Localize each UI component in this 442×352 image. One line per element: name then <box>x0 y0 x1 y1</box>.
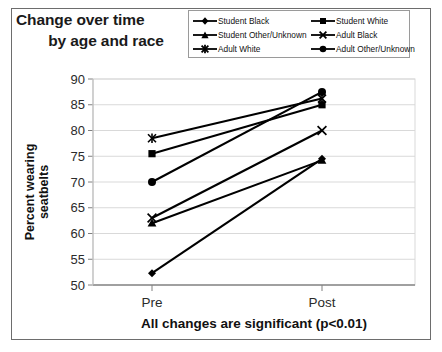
legend-item-adult-other-unknown: Adult Other/Unknown <box>311 43 411 55</box>
chart-title-line-1: Change over time <box>16 10 196 31</box>
triangle-marker-icon <box>193 29 217 41</box>
legend-item-student-other-unknown: Student Other/Unknown <box>193 29 311 41</box>
legend-grid: Student Black Student White <box>193 14 407 56</box>
legend-label: Adult Other/Unknown <box>336 45 415 53</box>
circle-marker-icon <box>311 43 335 55</box>
chart-title: Change over time by age and race <box>16 10 196 51</box>
asterisk-marker-icon <box>193 43 217 55</box>
legend-item-adult-black: Adult Black <box>311 29 411 41</box>
chart-screenshot: Change over time by age and race Student… <box>0 0 442 352</box>
legend-label: Student Black <box>218 17 269 25</box>
legend-label: Student Other/Unknown <box>218 31 307 39</box>
chart-title-line-2: by age and race <box>16 31 196 52</box>
legend-label: Student White <box>336 17 388 25</box>
legend-item-student-white: Student White <box>311 15 411 27</box>
chart-legend: Student Black Student White <box>188 10 410 58</box>
square-marker-icon <box>311 15 335 27</box>
legend-item-student-black: Student Black <box>193 15 311 27</box>
x-marker-icon <box>311 29 335 41</box>
diamond-marker-icon <box>193 15 217 27</box>
legend-label: Adult White <box>218 45 260 53</box>
legend-item-adult-white: Adult White <box>193 43 311 55</box>
legend-label: Adult Black <box>336 31 378 39</box>
